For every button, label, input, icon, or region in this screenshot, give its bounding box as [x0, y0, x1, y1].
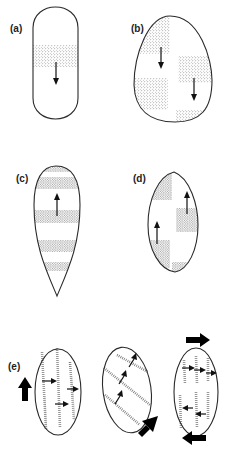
- cell-oval-1: [35, 348, 81, 435]
- cell-oval-2: [97, 344, 158, 437]
- panel-a-label: (a): [10, 23, 22, 34]
- cell-oval-3: [174, 333, 218, 445]
- panel-b: (b): [130, 16, 214, 124]
- panel-b-label: (b): [131, 23, 144, 34]
- arrow-right-icon: [67, 386, 79, 392]
- large-arrow-right-icon: [186, 333, 210, 347]
- panel-e: (e): [8, 333, 218, 445]
- arrow-up-right-icon: [119, 370, 127, 384]
- arrow-right-icon: [42, 378, 57, 384]
- arrow-left-icon: [182, 405, 193, 411]
- cell-division-diagram: (a) (b) (c): [0, 0, 230, 450]
- arrow-up-right-icon: [115, 390, 123, 404]
- large-arrow-left-icon: [182, 431, 206, 445]
- large-arrow-up-right-icon: [138, 416, 158, 437]
- panel-e-label: (e): [8, 361, 20, 372]
- panel-c-label: (c): [16, 173, 28, 184]
- panel-d: (d): [133, 172, 200, 274]
- panel-d-label: (d): [133, 173, 146, 184]
- large-arrow-up-icon: [18, 377, 32, 401]
- arrow-right-icon: [55, 401, 69, 407]
- panel-a: (a): [10, 7, 78, 119]
- panel-c: (c): [16, 165, 85, 296]
